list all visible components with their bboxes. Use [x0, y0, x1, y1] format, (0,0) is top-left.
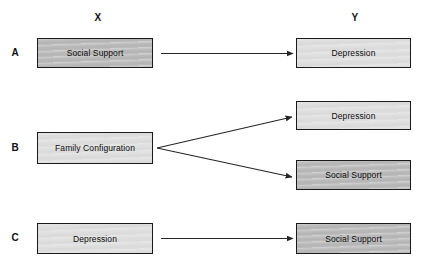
node-c-predictor-depression[interactable]: Depression	[37, 223, 153, 254]
node-label: Social Support	[67, 48, 124, 58]
node-label: Depression	[332, 111, 376, 121]
row-label-c: C	[7, 232, 23, 243]
arrow-b-family-configuration-to-depression	[157, 117, 292, 148]
node-b-outcome-depression[interactable]: Depression	[296, 101, 411, 130]
row-label-b: B	[7, 142, 23, 153]
row-label-a: A	[7, 47, 23, 58]
node-c-outcome-social-support[interactable]: Social Support	[296, 223, 411, 254]
node-a-outcome-depression[interactable]: Depression	[296, 38, 411, 68]
node-a-predictor-social-support[interactable]: Social Support	[37, 38, 153, 68]
diagram-canvas: X Y A B C Social Support Depression Fami…	[0, 0, 421, 264]
node-label: Depression	[332, 48, 376, 58]
node-label: Social Support	[325, 170, 382, 180]
node-label: Social Support	[325, 234, 382, 244]
node-b-predictor-family-configuration[interactable]: Family Configuration	[37, 132, 153, 164]
node-label: Depression	[73, 234, 117, 244]
column-header-y: Y	[340, 12, 370, 23]
arrow-b-family-configuration-to-social-support	[157, 148, 292, 177]
node-b-outcome-social-support[interactable]: Social Support	[296, 160, 411, 190]
column-header-x: X	[83, 12, 113, 23]
node-label: Family Configuration	[55, 143, 135, 153]
